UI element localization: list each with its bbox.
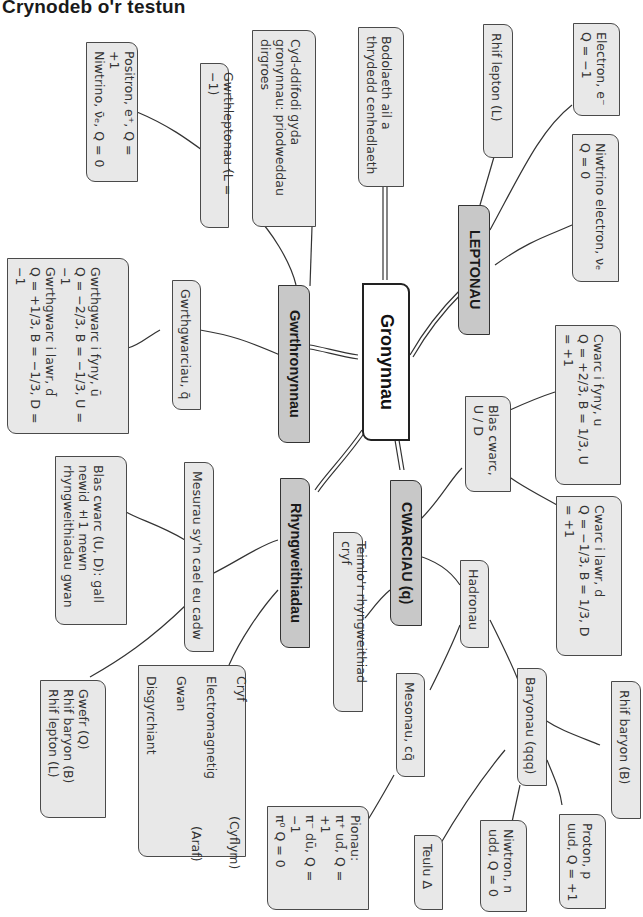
node-forces: Cryf Electromagnetig Gwan Disgyrchiant (… [138,665,246,857]
slow-label: (Araf) [189,826,204,862]
branch-label: CWARCIAU (q) [399,502,414,604]
node-cyd-ddifodi: Cyd-ddifodi gyda gronynnau: priodweddau … [252,30,316,227]
center-label: Gronynnau [379,314,394,410]
node-mesonau: Mesonau, cq̄ [396,673,425,777]
node-cadw-list: Gwefr (Q) Rhif baryon (B) Rhif lepton (L… [40,680,106,818]
node-gwrthgwarciau: Gwrthgwarciau, q̄ [172,280,201,410]
node-bodolaeth: Bodolaeth ail a thrydedd cenhedlaeth [358,27,404,187]
node-cwarc-fyny: Cwarc i fyny, u Q = +2/3, B = 1/3, U = +… [555,325,621,485]
force-electromagnetig: Electromagnetig [204,676,219,779]
force-cryf: Cryf [234,676,249,702]
node-gwrthleptonau: Gwrthleptonau (L = −1) [200,63,229,228]
branch-cwarciau: CWARCIAU (q) [390,480,422,626]
node-baryonau: Baryonau (qqq) [517,668,547,786]
node-blas-cwarc: Blas cwarc, U / D [465,396,511,492]
node-teulu-delta: Teulu Δ [414,835,443,910]
fast-label: (Cyflym) [227,816,242,869]
node-hadronau: Hadronau [460,560,489,648]
branch-leptonau: LEPTONAU [458,205,490,335]
node-cwarc-lawr: Cwarc i lawr, d Q = −1/3, B = 1/3, D = +… [556,496,622,656]
node-positron: Positron, e⁺, Q = +1 Niwtrino, ν̄ₑ, Q = … [86,42,138,182]
node-rhif-baryon: Rhif baryon (B) [611,681,641,819]
node-niwtron: Niwtron, n udd, Q = 0 [480,820,527,912]
branch-rhyngweithiadau: Rhyngweithiadau [280,478,310,648]
node-proton: Proton, p uud, Q = +1 [559,814,606,909]
force-disgyrchiant: Disgyrchiant [144,676,159,755]
center-node-gronynnau: Gronynnau [362,283,410,441]
node-electron: Electron, e⁻ Q = −1 [573,23,620,116]
node-mesurau: Mesurau sy'n cael eu cadw [184,462,214,652]
node-blas-newid: Blas cwarc (U, D): gall newid ±1 mewn rh… [55,456,127,625]
node-niwtrino-electron: Niwtrino electron, νₑ Q = 0 [572,134,619,282]
node-rhif-lepton: Rhif lepton (L) [483,24,513,158]
node-teimlo: Teimlo'r rhyngweithiad cryf [333,532,363,712]
node-gwrthgwarc-detail: Gwrthgwarc i fyny, ū Q = −2/3, B = −1/3,… [7,258,129,434]
force-gwan: Gwan [174,676,189,712]
branch-label: Gwrthronynnau [287,310,302,418]
branch-label: LEPTONAU [467,230,482,310]
branch-label: Rhyngweithiadau [288,503,303,623]
node-pionau: Pionau: π⁺ ud̄, Q = +1 π⁻ dū, Q = −1 π⁰ … [267,806,369,910]
branch-gwrthronynnau: Gwrthronynnau [278,285,310,443]
